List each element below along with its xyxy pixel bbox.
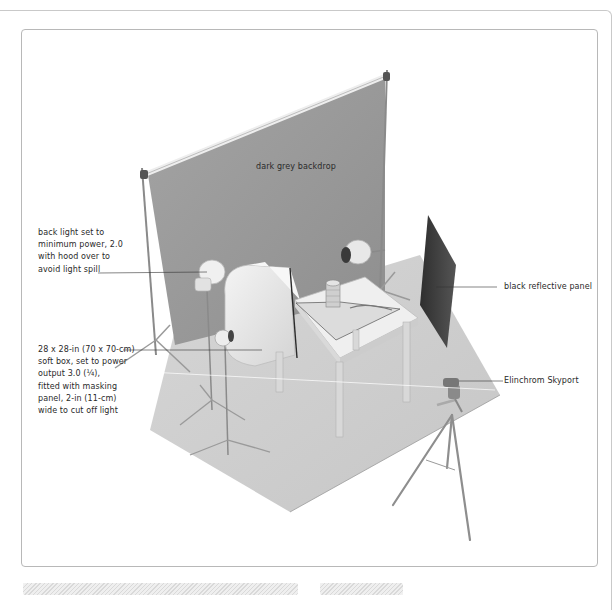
label-reflective-panel: black reflective panel	[504, 281, 592, 293]
label-soft-box-line: 28 x 28-in (70 x 70-cm)	[38, 344, 135, 356]
label-soft-box-line: wide to cut off light	[38, 405, 135, 417]
label-soft-box-line: output 3.0 (¼),	[38, 368, 135, 380]
label-soft-box-line: fitted with masking	[38, 381, 135, 393]
label-back-light-line: avoid light spill	[38, 264, 123, 276]
label-back-light: back light set to minimum power, 2.0 wit…	[38, 227, 123, 276]
coin-stack	[326, 280, 340, 307]
caption-bar-short	[320, 583, 403, 595]
caption-bar-long	[23, 583, 298, 595]
label-soft-box-line: soft box, set to power	[38, 356, 135, 368]
label-back-light-line: back light set to	[38, 227, 123, 239]
label-back-light-line: with hood over to	[38, 251, 123, 263]
label-soft-box-line: panel, 2-in (11-cm)	[38, 393, 135, 405]
label-back-light-line: minimum power, 2.0	[38, 239, 123, 251]
label-soft-box: 28 x 28-in (70 x 70-cm) soft box, set to…	[38, 344, 135, 417]
label-backdrop: dark grey backdrop	[256, 161, 336, 173]
label-trigger: Elinchrom Skyport	[504, 375, 579, 387]
